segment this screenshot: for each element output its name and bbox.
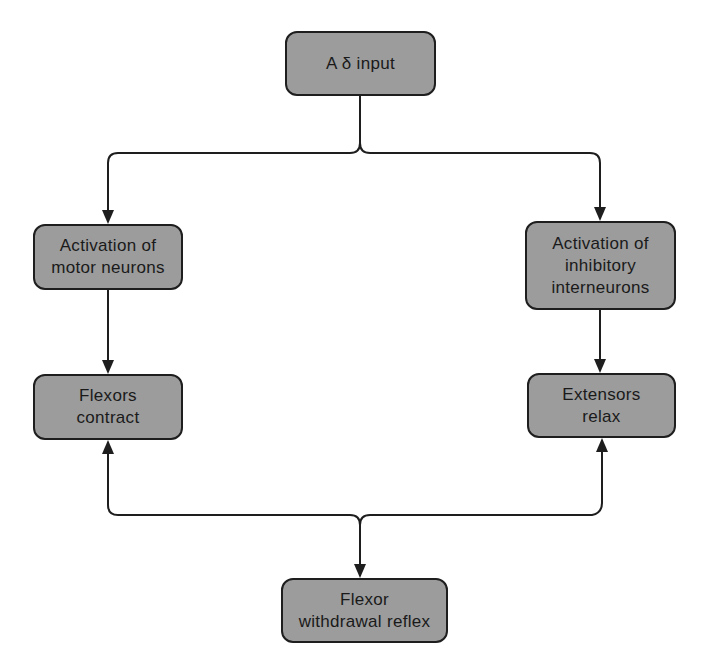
node-flexor-withdrawal-reflex: Flexor withdrawal reflex [281, 578, 448, 643]
node-label-line: relax [562, 406, 640, 428]
node-label-line: withdrawal reflex [299, 611, 431, 633]
node-a-delta-input: A δ input [285, 31, 436, 96]
node-label-line: motor neurons [51, 257, 165, 279]
connector-join-right [360, 450, 602, 525]
arrowhead-to-flexors [102, 360, 114, 374]
node-label-line: contract [77, 407, 140, 429]
arrowhead-to-extensors [594, 359, 606, 373]
node-label-line: Flexors [77, 385, 140, 407]
node-activation-inhibitory-interneurons: Activation of inhibitory interneurons [525, 221, 676, 310]
arrowhead-to-motor [102, 210, 114, 224]
node-label-line: Flexor [299, 589, 431, 611]
node-label-line: Activation of [551, 233, 649, 255]
connector-input-split [108, 96, 360, 214]
node-label-line: Extensors [562, 384, 640, 406]
connector-join-left [108, 452, 360, 525]
node-label: A δ input [326, 53, 395, 75]
node-label-line: interneurons [551, 277, 649, 299]
node-activation-motor-neurons: Activation of motor neurons [33, 224, 183, 290]
connectors [0, 0, 708, 663]
node-label-line: Activation of [51, 235, 165, 257]
arrowhead-to-reflex [354, 564, 366, 578]
node-label-line: inhibitory [551, 255, 649, 277]
node-flexors-contract: Flexors contract [33, 374, 183, 440]
flowchart-diagram: A δ input Activation of motor neurons Ac… [0, 0, 708, 663]
arrowhead-to-inhibitory [594, 207, 606, 221]
connector-input-split-right [360, 143, 600, 211]
node-extensors-relax: Extensors relax [527, 373, 676, 438]
arrowhead-up-extensors [596, 438, 608, 452]
arrowhead-up-flexors [102, 440, 114, 454]
